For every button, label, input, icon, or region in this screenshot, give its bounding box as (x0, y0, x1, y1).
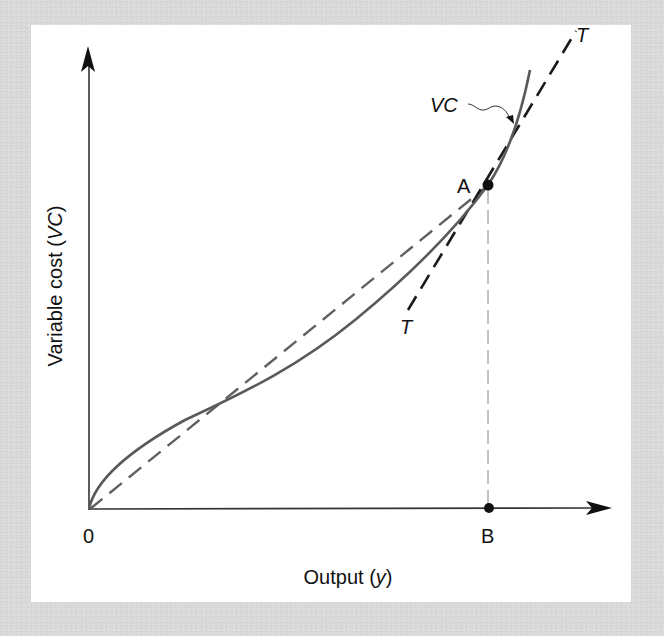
ray-origin-to-a (90, 187, 486, 509)
point-a-label: A (457, 175, 471, 197)
x-axis (89, 501, 612, 515)
vc-pointer-arrow (468, 104, 512, 121)
x-axis-title: Output (y) (304, 566, 393, 588)
y-axis-title: Variable cost (VC) (44, 206, 66, 367)
origin-label: 0 (83, 525, 94, 547)
point-b (484, 503, 494, 513)
y-axis (81, 46, 95, 510)
point-a (483, 180, 494, 191)
point-b-label: B (481, 525, 494, 547)
vc-pointer-arrowhead-icon (506, 115, 514, 124)
curve-label-vc: VC (430, 94, 458, 116)
vc-curve (89, 70, 530, 509)
tangent-label-top: T (576, 24, 590, 46)
tangent-label-bottom: T (400, 316, 414, 338)
vc-diagram: VC T T A B 0 Output (y) Variable cost (V… (0, 0, 664, 636)
tangent-line-t (408, 31, 576, 310)
y-axis-arrow-icon (81, 46, 95, 72)
